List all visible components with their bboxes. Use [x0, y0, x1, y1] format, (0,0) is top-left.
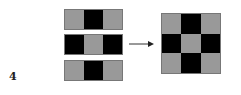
gray-cell	[162, 14, 181, 34]
gray-cell	[162, 53, 181, 73]
black-cell	[181, 53, 200, 73]
gray-cell	[103, 61, 122, 80]
gray-cell	[201, 53, 220, 73]
strip-1	[64, 9, 123, 30]
result-grid	[161, 13, 221, 74]
gray-cell	[84, 35, 103, 54]
gray-cell	[201, 14, 220, 34]
black-cell	[162, 34, 181, 54]
gray-cell	[181, 34, 200, 54]
gray-cell	[103, 10, 122, 29]
black-cell	[84, 10, 103, 29]
black-cell	[103, 35, 122, 54]
strip-2	[64, 34, 123, 55]
gray-cell	[65, 10, 84, 29]
arrow-right-icon	[129, 40, 155, 48]
strip-3	[64, 60, 123, 81]
black-cell	[65, 35, 84, 54]
black-cell	[84, 61, 103, 80]
black-cell	[201, 34, 220, 54]
black-cell	[181, 14, 200, 34]
gray-cell	[65, 61, 84, 80]
figure-number-label: 4	[9, 70, 17, 83]
